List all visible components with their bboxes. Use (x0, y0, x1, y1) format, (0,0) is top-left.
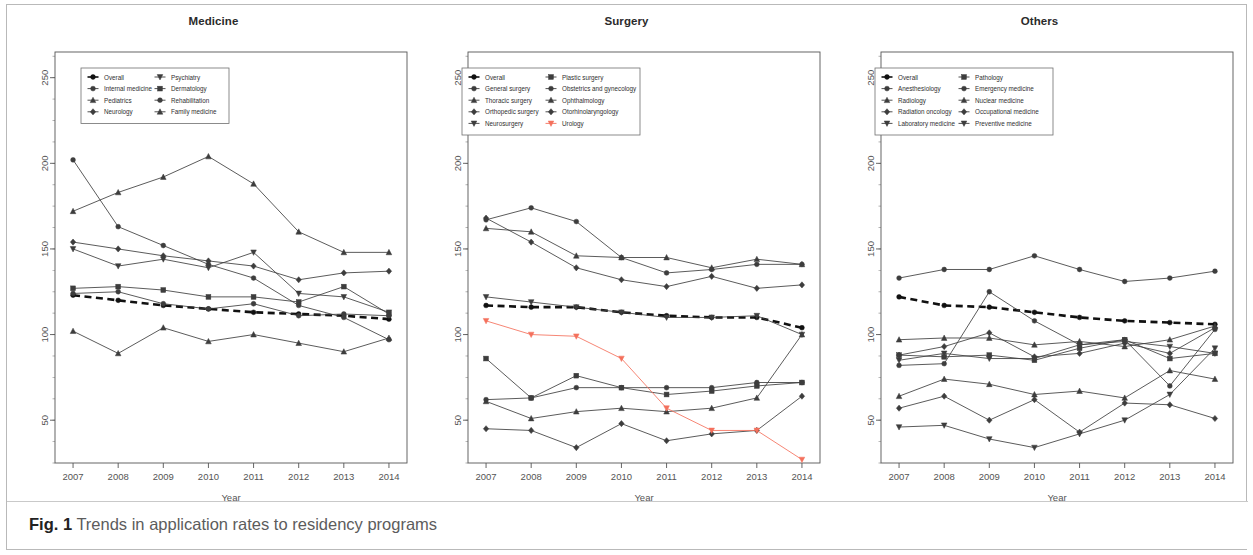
data-point (709, 385, 714, 390)
data-point (1167, 384, 1172, 389)
data-point (116, 289, 121, 294)
data-point (296, 300, 301, 305)
x-tick-label: 2010 (1024, 471, 1045, 482)
legend: OverallInternal medicinePediatricsNeurol… (81, 68, 229, 123)
data-point (251, 301, 256, 306)
data-point (251, 310, 256, 315)
data-point (115, 350, 121, 355)
x-tick-label: 2010 (198, 471, 219, 482)
data-point (664, 392, 669, 397)
data-point (251, 181, 257, 186)
data-point (1032, 318, 1037, 323)
figure-caption: Fig. 1 Trends in application rates to re… (29, 515, 437, 534)
legend-label: Emergency medicine (975, 85, 1034, 93)
data-point (987, 289, 992, 294)
series-line (486, 396, 802, 447)
y-tick-label: 200 (452, 155, 463, 171)
data-point (1167, 356, 1172, 361)
data-point (1077, 342, 1082, 347)
data-point (574, 265, 579, 271)
legend-label: Overall (898, 74, 918, 81)
data-point (799, 457, 805, 462)
x-tick-label: 2011 (656, 471, 676, 482)
series-line (899, 326, 1215, 347)
series-occupational-medicine (896, 393, 1217, 435)
data-point (116, 298, 121, 303)
data-point (987, 353, 992, 358)
data-point (484, 356, 489, 361)
y-tick-label: 200 (39, 155, 50, 171)
data-point (71, 291, 76, 296)
data-point (1167, 368, 1173, 373)
legend-marker (549, 86, 554, 91)
data-point (1032, 397, 1037, 403)
data-point (296, 313, 301, 318)
data-point (574, 219, 579, 224)
y-tick-label: 250 (39, 70, 50, 86)
legend-label: Neurosurgery (485, 120, 524, 128)
plot-surgery: 5010015020025020072008200920102011201220… (420, 5, 833, 503)
data-point (1032, 358, 1037, 363)
series-line (486, 321, 802, 460)
data-point (386, 335, 392, 340)
x-tick-label: 2008 (108, 471, 129, 482)
x-tick-label: 2007 (888, 471, 909, 482)
x-tick-label: 2013 (333, 471, 354, 482)
series-line (486, 359, 802, 398)
data-point (1032, 445, 1038, 450)
legend-label: Internal medicine (104, 85, 152, 92)
series-group (70, 153, 391, 355)
legend-label: Urology (562, 120, 585, 128)
data-point (664, 284, 669, 290)
legend-label: Overall (104, 74, 124, 81)
data-point (1213, 269, 1218, 274)
y-tick-label: 100 (39, 327, 50, 343)
x-tick-label: 2010 (611, 471, 632, 482)
series-rehabilitation (71, 289, 392, 318)
legend-marker (91, 75, 96, 80)
data-point (1167, 392, 1173, 397)
data-point (942, 303, 947, 308)
series-line (73, 242, 389, 280)
data-point (70, 239, 75, 245)
x-tick-label: 2014 (378, 471, 399, 482)
x-tick-label: 2012 (1114, 471, 1135, 482)
data-point (799, 282, 804, 288)
data-point (897, 294, 902, 299)
data-point (206, 265, 212, 270)
series-family-medicine (70, 325, 391, 356)
series-line (486, 335, 802, 419)
legend-marker (472, 86, 477, 91)
data-point (116, 284, 121, 289)
data-point (483, 225, 489, 230)
y-tick-label: 200 (865, 155, 876, 171)
legend-label: Psychiatry (171, 74, 201, 82)
data-point (1077, 267, 1082, 272)
y-tick-label: 50 (452, 415, 463, 426)
x-axis: 20072008200920102011201220132014 (62, 463, 399, 482)
legend-label: Pathology (975, 74, 1004, 82)
data-point (341, 312, 346, 317)
x-tick-label: 2007 (475, 471, 496, 482)
x-tick-label: 2011 (243, 471, 263, 482)
data-point (664, 406, 670, 411)
data-point (161, 325, 167, 330)
data-point (529, 205, 534, 210)
legend-label: Anesthesiology (898, 85, 942, 93)
y-tick-label: 150 (865, 241, 876, 257)
data-point (987, 417, 992, 423)
x-tick-label: 2014 (1204, 471, 1225, 482)
legend-label: Radiology (898, 97, 927, 105)
data-point (528, 427, 533, 433)
data-point (619, 405, 625, 410)
caption-bar: Fig. 1 Trends in application rates to re… (7, 501, 1248, 549)
x-tick-label: 2014 (791, 471, 812, 482)
series-urology (483, 318, 804, 462)
series-group (483, 205, 804, 462)
data-point (1077, 350, 1082, 356)
legend-marker (885, 75, 890, 80)
data-point (296, 277, 301, 283)
data-point (754, 256, 760, 261)
data-point (71, 157, 76, 162)
data-point (897, 276, 902, 281)
